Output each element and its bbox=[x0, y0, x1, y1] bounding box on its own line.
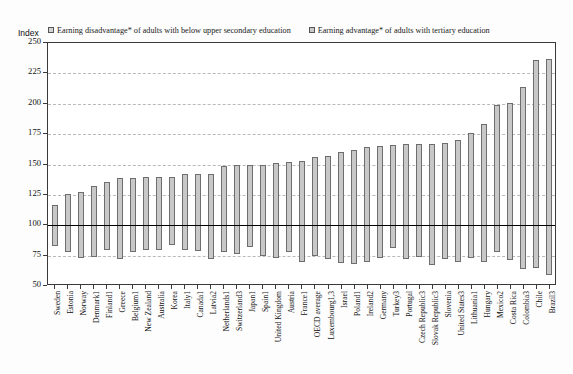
x-axis-tick bbox=[510, 285, 511, 289]
bar-slot bbox=[477, 43, 490, 284]
x-axis-tick bbox=[223, 285, 224, 289]
x-axis-slot: Netherlands1 bbox=[217, 285, 230, 373]
x-axis-slot: Costa Rica bbox=[504, 285, 517, 373]
x-axis-slot: Japan1 bbox=[243, 285, 256, 373]
x-axis-slot: Mexico2 bbox=[491, 285, 504, 373]
x-axis-slot: Brazil3 bbox=[543, 285, 556, 373]
bar-slot bbox=[542, 43, 555, 284]
bar[interactable] bbox=[533, 60, 539, 268]
x-axis-tick bbox=[210, 285, 211, 289]
bar-slot bbox=[48, 43, 61, 284]
x-axis-tick bbox=[314, 285, 315, 289]
bar[interactable] bbox=[195, 174, 201, 251]
bar[interactable] bbox=[104, 182, 110, 250]
x-axis-slot: Ireland2 bbox=[360, 285, 373, 373]
bar[interactable] bbox=[91, 186, 97, 256]
x-axis-tick bbox=[367, 285, 368, 289]
bar[interactable] bbox=[312, 157, 318, 255]
square-outline-icon bbox=[309, 27, 315, 33]
bar[interactable] bbox=[364, 147, 370, 261]
y-axis-tick-label: 125 bbox=[28, 188, 41, 198]
square-outline-icon bbox=[48, 27, 54, 33]
x-axis-slot: Israel bbox=[334, 285, 347, 373]
x-axis-tick bbox=[341, 285, 342, 289]
bar[interactable] bbox=[208, 174, 214, 259]
bar[interactable] bbox=[390, 145, 396, 248]
bar-group bbox=[48, 43, 555, 284]
bar[interactable] bbox=[169, 177, 175, 245]
x-axis: SwedenEstoniaNorwayDenmark1Finland1Greec… bbox=[47, 285, 556, 373]
x-axis-slot: Korea bbox=[164, 285, 177, 373]
x-axis-slot: United Kingdom bbox=[269, 285, 282, 373]
bar[interactable] bbox=[117, 178, 123, 259]
bar-slot bbox=[74, 43, 87, 284]
bar[interactable] bbox=[260, 165, 266, 256]
bar[interactable] bbox=[221, 166, 227, 252]
x-axis-slot: Estonia bbox=[60, 285, 73, 373]
bar[interactable] bbox=[403, 144, 409, 259]
bar[interactable] bbox=[416, 144, 422, 257]
x-axis-slot: Lithuania1 bbox=[465, 285, 478, 373]
bar-slot bbox=[204, 43, 217, 284]
bar[interactable] bbox=[299, 161, 305, 262]
x-axis-tick bbox=[184, 285, 185, 289]
bar[interactable] bbox=[455, 140, 461, 262]
bar[interactable] bbox=[130, 178, 136, 252]
bar[interactable] bbox=[325, 156, 331, 259]
x-axis-slot: Finland1 bbox=[99, 285, 112, 373]
bar[interactable] bbox=[351, 150, 357, 264]
bar[interactable] bbox=[286, 162, 292, 252]
bar[interactable] bbox=[65, 194, 71, 252]
bar[interactable] bbox=[156, 177, 162, 250]
bar-slot bbox=[256, 43, 269, 284]
bar[interactable] bbox=[546, 59, 552, 275]
x-axis-slot: Italy1 bbox=[177, 285, 190, 373]
legend-label-advantage: Earning advantage* of adults with tertia… bbox=[318, 26, 490, 35]
x-axis-slot: Slovenia bbox=[438, 285, 451, 373]
bar[interactable] bbox=[182, 174, 188, 249]
x-axis-tick bbox=[145, 285, 146, 289]
x-axis-tick bbox=[288, 285, 289, 289]
bar[interactable] bbox=[273, 163, 279, 258]
bar-slot bbox=[100, 43, 113, 284]
bar-slot bbox=[438, 43, 451, 284]
bar[interactable] bbox=[377, 146, 383, 258]
x-axis-tick bbox=[380, 285, 381, 289]
bar-slot bbox=[230, 43, 243, 284]
x-axis-slot: United States3 bbox=[451, 285, 464, 373]
y-axis-tick-label: 175 bbox=[28, 127, 41, 137]
plot-area bbox=[47, 42, 556, 285]
x-axis-tick bbox=[80, 285, 81, 289]
x-axis-slot: Spain1 bbox=[256, 285, 269, 373]
x-axis-tick bbox=[419, 285, 420, 289]
y-axis-tick-label: 250 bbox=[28, 36, 41, 46]
x-axis-tick-label: Brazil3 bbox=[549, 291, 557, 313]
x-axis-tick bbox=[445, 285, 446, 289]
bar-slot bbox=[217, 43, 230, 284]
bar[interactable] bbox=[481, 124, 487, 261]
bar[interactable] bbox=[468, 133, 474, 258]
bar-slot bbox=[399, 43, 412, 284]
bar-slot bbox=[191, 43, 204, 284]
bar[interactable] bbox=[143, 177, 149, 250]
bar[interactable] bbox=[494, 105, 500, 252]
x-axis-tick bbox=[393, 285, 394, 289]
bar[interactable] bbox=[442, 143, 448, 260]
x-axis-tick bbox=[458, 285, 459, 289]
bar-slot bbox=[139, 43, 152, 284]
y-axis-tick-label: 200 bbox=[28, 97, 41, 107]
bar[interactable] bbox=[429, 144, 435, 266]
bar-slot bbox=[308, 43, 321, 284]
bar[interactable] bbox=[338, 152, 344, 263]
x-axis-tick bbox=[275, 285, 276, 289]
x-axis-tick bbox=[54, 285, 55, 289]
bar[interactable] bbox=[520, 87, 526, 269]
bar[interactable] bbox=[507, 103, 513, 261]
bar-slot bbox=[243, 43, 256, 284]
bar[interactable] bbox=[234, 165, 240, 255]
bar-slot bbox=[529, 43, 542, 284]
bar[interactable] bbox=[247, 165, 253, 248]
baseline-100 bbox=[48, 225, 555, 226]
x-axis-slot: Australia bbox=[151, 285, 164, 373]
bar-slot bbox=[425, 43, 438, 284]
